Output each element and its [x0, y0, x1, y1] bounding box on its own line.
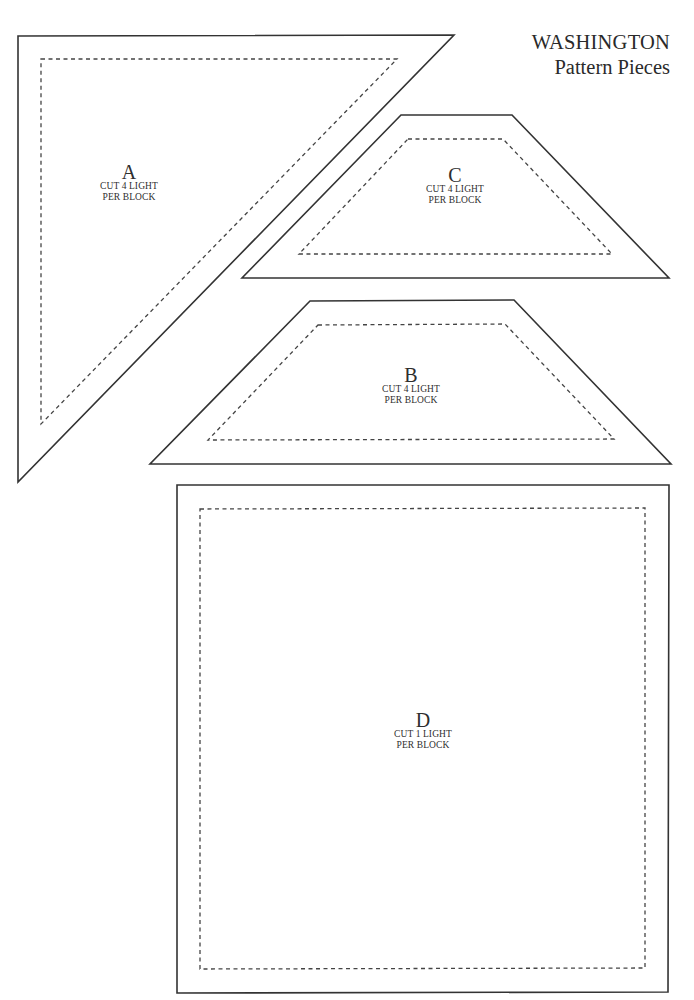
piece-b-cut-instruction: CUT 4 LIGHT: [382, 384, 440, 395]
piece-a: [18, 35, 454, 482]
piece-c-letter: C: [426, 166, 484, 184]
piece-b-per-block: PER BLOCK: [382, 395, 440, 406]
piece-d-label: D CUT 1 LIGHT PER BLOCK: [394, 711, 452, 751]
piece-a-label: A CUT 4 LIGHT PER BLOCK: [100, 163, 158, 203]
piece-c-per-block: PER BLOCK: [426, 195, 484, 206]
piece-b-letter: B: [382, 366, 440, 384]
piece-d-letter: D: [394, 711, 452, 729]
page-title: WASHINGTON: [532, 31, 670, 54]
page-subtitle: Pattern Pieces: [554, 56, 670, 79]
piece-b-label: B CUT 4 LIGHT PER BLOCK: [382, 366, 440, 406]
piece-c-label: C CUT 4 LIGHT PER BLOCK: [426, 166, 484, 206]
pattern-canvas: [0, 0, 694, 1000]
piece-c-cut-instruction: CUT 4 LIGHT: [426, 184, 484, 195]
piece-a-cut-instruction: CUT 4 LIGHT: [100, 181, 158, 192]
piece-d-cut-instruction: CUT 1 LIGHT: [394, 729, 452, 740]
piece-a-per-block: PER BLOCK: [100, 192, 158, 203]
piece-a-letter: A: [100, 163, 158, 181]
piece-a-seam-line: [41, 59, 397, 424]
piece-a-cut-line: [18, 35, 454, 482]
piece-d-per-block: PER BLOCK: [394, 740, 452, 751]
